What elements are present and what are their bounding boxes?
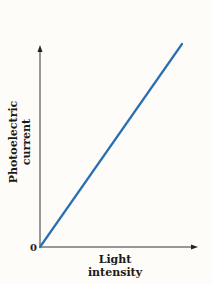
data-line-series	[40, 44, 182, 247]
x-axis-label-line1: Light	[88, 253, 142, 266]
origin-label: 0	[30, 242, 37, 253]
x-axis-label-line2: intensity	[88, 266, 142, 279]
y-axis-arrow-icon	[38, 45, 43, 52]
x-axis-label: Light intensity	[88, 253, 142, 279]
x-axis-arrow-icon	[191, 245, 198, 250]
y-axis-label: Photoelectric current	[7, 101, 33, 184]
y-axis-label-line1: Photoelectric	[7, 101, 20, 184]
y-axis-label-line2: current	[20, 101, 33, 184]
